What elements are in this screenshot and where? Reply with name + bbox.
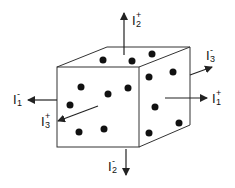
label-i2-minus: I-2 <box>108 160 112 173</box>
label-i2-plus: I+2 <box>132 14 136 27</box>
arrow-i3-minus <box>190 67 212 75</box>
arrow-i3-plus <box>58 106 98 121</box>
label-i3-plus: I+3 <box>41 115 45 128</box>
cube-diagram <box>0 0 235 188</box>
label-i3-minus: I-3 <box>206 49 210 62</box>
dots <box>67 51 183 137</box>
label-i1-plus: I+1 <box>212 92 216 105</box>
arrows <box>28 13 212 175</box>
label-i1-minus: I-1 <box>13 93 17 106</box>
